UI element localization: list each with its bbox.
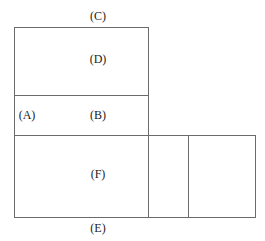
d-b-divider xyxy=(14,95,149,96)
column-right-edge xyxy=(148,27,149,218)
top-edge xyxy=(14,27,149,28)
label-c: (C) xyxy=(90,9,106,24)
left-edge xyxy=(14,27,15,218)
right-edge xyxy=(255,135,256,218)
label-d: (D) xyxy=(90,52,107,67)
label-b: (B) xyxy=(90,108,106,123)
row-top-edge xyxy=(14,135,256,136)
small-divider xyxy=(188,135,189,218)
label-e: (E) xyxy=(90,221,105,236)
label-f: (F) xyxy=(91,167,106,182)
label-a: (A) xyxy=(19,108,36,123)
row-bottom-edge xyxy=(14,217,256,218)
